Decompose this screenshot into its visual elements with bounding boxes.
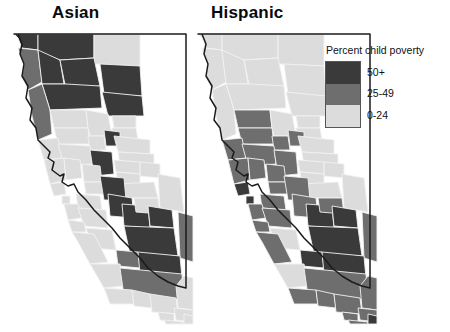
map-asian (8, 24, 193, 324)
county-region (68, 220, 86, 232)
county-region (272, 136, 290, 150)
legend-swatch-high (326, 62, 360, 84)
county-region (222, 138, 246, 160)
county-region (104, 288, 134, 304)
panel-title-hispanic: Hispanic (211, 3, 283, 23)
legend-label-low: 0-24 (367, 109, 388, 121)
county-region (234, 182, 250, 196)
county-region (140, 162, 160, 178)
legend-label-mid: 25-49 (367, 87, 394, 99)
county-region (114, 136, 150, 154)
county-region (324, 162, 344, 178)
county-region (50, 182, 66, 196)
county-region (38, 138, 62, 160)
county-region (82, 164, 102, 182)
choropleth-figure: Asian Hispanic Percent child poverty 50+… (0, 0, 450, 332)
county-region (102, 92, 144, 116)
legend-swatch-box: 50+ 25-49 0-24 (325, 61, 361, 128)
county-region (62, 196, 70, 204)
legend-row-high (326, 62, 360, 84)
county-region (90, 264, 124, 288)
county-region (286, 92, 328, 116)
county-region (226, 84, 286, 110)
legend-row-mid (326, 84, 360, 106)
county-region (332, 206, 358, 228)
county-region (248, 158, 266, 180)
county-region (296, 116, 320, 128)
county-region (148, 206, 174, 228)
county-region (274, 264, 308, 288)
county-region (88, 136, 106, 150)
county-region (298, 136, 334, 154)
county-region (244, 58, 284, 88)
county-region (288, 288, 318, 304)
county-region (112, 116, 136, 128)
panel-title-asian: Asian (52, 3, 99, 23)
county-region (260, 194, 286, 210)
county-region (64, 158, 82, 180)
legend-label-high: 50+ (367, 66, 385, 78)
county-region (342, 174, 368, 212)
county-region (158, 174, 184, 212)
county-region (266, 164, 286, 182)
county-region (278, 34, 324, 66)
county-region (238, 128, 274, 144)
legend: Percent child poverty 50+ 25-49 0-24 (325, 44, 445, 128)
county-region (50, 110, 88, 128)
legend-title: Percent child poverty (326, 44, 445, 56)
county-region (60, 58, 100, 88)
county-region (368, 314, 377, 324)
legend-swatch-low (326, 105, 360, 127)
county-region (54, 128, 90, 144)
county-region (246, 196, 254, 204)
county-region (234, 110, 272, 128)
county-region (42, 84, 102, 110)
county-region (252, 220, 270, 232)
legend-swatch-mid (326, 84, 360, 106)
county-region (284, 64, 326, 96)
county-region (100, 64, 142, 96)
legend-row-low (326, 105, 360, 127)
county-region (76, 194, 102, 210)
county-region (94, 34, 140, 66)
